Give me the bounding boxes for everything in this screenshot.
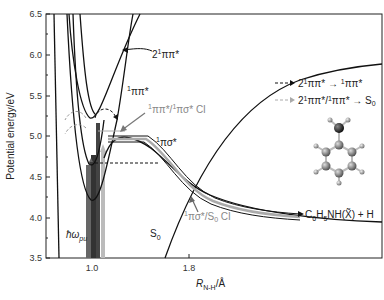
y-tick-4.0: 4.0	[29, 213, 42, 223]
y-tick-5.5: 5.5	[29, 91, 42, 101]
label-pisigma: 1πσ*	[156, 136, 177, 148]
y-axis-tick-labels: 6.5 6.0 5.5 5.0 4.5 4.0 3.5	[29, 9, 42, 263]
label-ci-lower: 1πσ*/S0 CI	[184, 210, 231, 223]
legend-item-1: 21ππ* → 1ππ*	[298, 78, 362, 89]
label-product: C6H5NH(X̃) + H	[305, 208, 374, 222]
potential-energy-diagram: 6.5 6.0 5.5 5.0 4.5 4.0 3.5 Potential en…	[0, 0, 384, 300]
x-tick-1.0: 1.0	[86, 263, 99, 273]
two-pipi-inner	[80, 14, 96, 115]
s0-curve	[165, 64, 382, 258]
y-tick-6.0: 6.0	[29, 50, 42, 60]
label-pipi: 1ππ*	[127, 85, 149, 97]
two-pipi-curve	[69, 14, 140, 118]
ci-upper-pointer	[122, 113, 145, 130]
label-two-pipi: 21ππ*	[152, 48, 179, 60]
gray-dashed-arrow-1	[65, 111, 86, 120]
y-axis-label: Potential energy/eV	[5, 92, 16, 180]
two-pipi-pointer	[124, 49, 152, 51]
legend-item-2: 21ππ*/1ππ* → S0	[298, 95, 376, 107]
label-ci-upper: 1ππ*/1πσ* CI	[148, 103, 206, 115]
aniline-molecule-icon	[314, 118, 365, 186]
legend: 21ππ* → 1ππ* 21ππ*/1ππ* → S0	[275, 78, 376, 107]
excitation-bars	[86, 123, 106, 258]
ci-pathway	[108, 136, 304, 220]
x-axis-ticks	[92, 254, 189, 258]
y-axis-ticks	[46, 14, 50, 258]
label-s0: S0	[150, 228, 161, 241]
x-axis-label: RN-H/Å	[196, 277, 225, 291]
y-tick-6.5: 6.5	[29, 9, 42, 19]
y-tick-3.5: 3.5	[29, 253, 42, 263]
s0-left-wall	[54, 14, 59, 258]
x-tick-1.8: 1.8	[183, 263, 196, 273]
y-tick-4.5: 4.5	[29, 172, 42, 182]
label-hw: ħωpu	[66, 229, 87, 243]
y-tick-5.0: 5.0	[29, 131, 42, 141]
